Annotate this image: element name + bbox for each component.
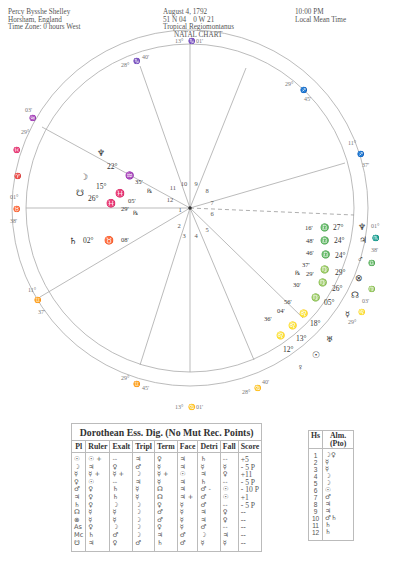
neptune-sign: ♎ [320,223,329,232]
cusp-1-sign: ♉ [13,205,21,213]
almuten-house: 4 [309,473,323,480]
dignity-cell-detri: ♄ [198,453,220,464]
dignity-cell-fall: ☿ [220,540,238,552]
cusp-6-degree: 29° [348,319,357,325]
cusp-6-sign: ♌ [358,308,366,316]
venus-minute: 36' [264,315,272,322]
col-fall: Fall [220,441,238,453]
col-detri: Detri [198,441,220,453]
retrograde-mark: ℞ [147,188,152,194]
house-number: 1 [178,206,181,213]
neptune-minute: 16' [305,224,313,231]
mars-glyph: ♂ [357,254,364,264]
cusp-12-degree: 29° [21,129,30,135]
cusp-1-degree: 01° [10,194,19,200]
almuten-row: 8♃ [309,501,354,508]
cusp-2-minute: 37' [38,309,45,315]
sun-minute: 04' [277,307,285,314]
retrograde-mark: ℞ [133,210,138,216]
col-tripl: Tripl [133,441,155,453]
cusp-9-degree: 29° [285,81,294,87]
house-number: 7 [210,199,214,206]
saturn-glyph: ♄ [69,236,77,246]
jupiter-glyph: ♃ [359,235,367,245]
dignity-cell-tripl: ♂ [133,540,155,552]
dignity-row: Mc♄♂☽♃♂☽♃-- [72,532,262,540]
dignities-header-row: Pl Ruler Exalt Tripl Term Face Detri Fal… [72,441,262,453]
dignity-cell-detri: ☿ [198,540,220,552]
dignity-cell-face: ♃ [177,453,198,464]
dignity-cell-score: -- [238,540,261,552]
south-node-minute: 29' [121,205,129,212]
col-almuten: Alm. (Pto) [323,431,354,449]
cusp-4-minute: 01' [196,404,203,410]
almuten-house: 11 [309,522,323,529]
node-degree: 26° [332,284,343,293]
saturn-degree: 02° [83,236,94,245]
house-number: 8 [205,187,208,194]
house-number: 5 [205,226,208,233]
almuten-planet: ♄ [323,529,354,541]
mars-degree: 24° [335,251,346,260]
almuten-house: 2 [309,459,323,466]
node-minute: 30' [293,281,301,288]
dignity-cell-exalt: ♀ [110,540,133,552]
col-planet: Pl [72,441,86,453]
cusp-5-degree: 28° [242,389,251,395]
cusp-2-sign: ♊ [34,296,42,304]
almuten-row: 12♄ [309,529,354,541]
cusp-8-degree: 11° [348,140,357,146]
intercepted-pisces-sign: ♓ [13,146,21,154]
almuten-row: 5☽ [309,480,354,487]
dignity-row: ♄♀☽☽♀☿♂--- 5 P [72,502,262,510]
cusp-8-sign: ♐ [357,150,365,158]
almuten-row: 7♂ [309,494,354,501]
almuten-house: 8 [309,501,323,508]
col-exalt: Exalt [110,441,133,453]
south-node-degree: 26° [88,194,99,203]
moon-sign: ♓ [115,188,125,198]
neptune-degree: 27° [333,223,344,232]
house-number: 9 [194,180,197,187]
cusp-11-sign: ♑ [133,57,141,65]
moon-glyph: ☽ [80,172,88,182]
fortune-sign: ♍ [320,265,329,274]
dignity-cell-pl: ☋ [72,540,86,552]
neptune-left-degree: 22° [107,162,118,171]
neptune-left-sign: ♒ [125,171,134,180]
dignity-row: ☊☿☿☽♂☿♃♀-- [72,509,262,517]
dignity-cell-pl: ☉ [72,453,86,464]
almuten-row: 10♂♄ [309,515,354,522]
intercepted-virgo-sign: ♍ [368,285,376,293]
fortune-minute-2: 29' [306,270,314,277]
venus-degree: 12° [283,345,294,354]
intercepted-aries-sign: ♈ [14,172,22,180]
dignity-row: ☉☉ +--♃♀♃♄--+5 [72,453,262,464]
col-ruler: Ruler [86,441,110,453]
dsc-dashed-line [190,208,354,215]
almuten-row: 6☉ [309,487,354,494]
cusp-9-sign: ♐ [300,86,308,94]
almuten-row: 4☽ [309,473,354,480]
sun-sign: ♌ [288,321,297,330]
cusp-11-minute: 40' [142,54,149,60]
dignity-cell-term: ♀ [154,453,177,464]
almuten-table: Hs Alm. (Pto) 1☽♀2☿3☿4☽5☽6☉7♂8♃9♃10♂♄11♄… [308,430,354,541]
cusp-1-minute: 38' [10,218,17,224]
south-node-glyph: ☋ [76,188,84,198]
chart-center-dot [188,206,192,210]
moon-minute: 05' [128,197,136,204]
almuten-house: 12 [309,529,323,541]
almuten-house: 7 [309,494,323,501]
dignity-cell-ruler: ♃ [86,540,110,552]
dignity-row: ☿☿ +☿ +☽☿ +☉♃♀+11 [72,471,262,479]
sun-glyph: ☉ [312,350,320,360]
cusp-3-sign: ♊ [133,380,141,388]
dignity-row: ☋♃♀♂♄♂☿☿-- [72,540,262,552]
dignity-row: As♀☽☽♀☿♂---- [72,524,262,532]
mars-sign: ♎ [321,250,330,259]
cusp-4-sign: ♋ [188,403,196,411]
cusp-7-sign: ♏ [372,234,380,242]
uranus-glyph: ♅ [326,335,333,344]
dignities-title: Dorothean Ess. Dig. (No Mut Rec. Points) [71,423,262,440]
